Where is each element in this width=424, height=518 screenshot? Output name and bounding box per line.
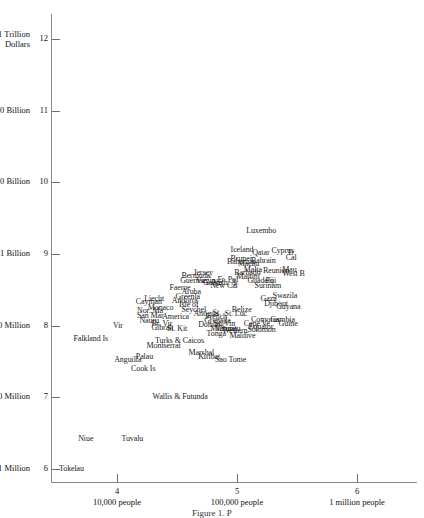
x-tick-label: 10,000 people (62, 497, 172, 507)
y-tick-label: 1 Billion (0, 249, 30, 259)
y-tick-label: 100 Billion (0, 106, 30, 116)
y-tick-number: 12 (34, 34, 48, 43)
y-tick-mark (52, 182, 60, 183)
scatter-label: Iceland (231, 246, 254, 255)
scatter-label: Vir (113, 322, 123, 331)
scatter-label: Brunei (231, 255, 252, 264)
chart-canvas: 121 TrillionDollars11100 Billion1010 Bil… (0, 0, 424, 518)
y-tick-number: 7 (34, 392, 48, 401)
scatter-label: West B (282, 270, 305, 279)
scatter-label: Bahrain (251, 257, 276, 266)
x-tick-label: 100,000 people (182, 497, 292, 507)
scatter-label: Swazila (273, 292, 298, 301)
scatter-label: Cook Is (131, 365, 155, 374)
scatter-label: Tuvalu (121, 435, 143, 444)
scatter-label: Faeroe (169, 284, 190, 293)
scatter-label: Wallis & Futunda (153, 393, 208, 402)
scatter-label: Solomon (247, 326, 275, 335)
y-tick-mark (52, 39, 60, 40)
x-tick-label: 1 million people (302, 497, 412, 507)
y-tick-number: 11 (34, 106, 48, 115)
scatter-label: St. Luc (225, 310, 247, 319)
scatter-label: Niue (78, 435, 93, 444)
scatter-label: Qatar (252, 249, 269, 258)
scatter-label: Sao Tome (215, 356, 246, 365)
y-tick-mark (52, 254, 60, 255)
scatter-label: Cayman (136, 298, 162, 307)
scatter-label: St. Kit (167, 325, 187, 334)
x-axis-line (51, 482, 417, 483)
x-tick-mark (117, 474, 118, 483)
x-tick-number: 5 (222, 486, 252, 496)
y-tick-label: 1 TrillionDollars (0, 30, 30, 49)
scatter-label: Tokelau (59, 465, 84, 474)
x-tick-number: 4 (102, 486, 132, 496)
scatter-label: Luxembo (246, 227, 276, 236)
y-tick-number: 6 (34, 464, 48, 473)
scatter-label: Palau (136, 353, 153, 362)
scatter-label: Guyana (276, 303, 300, 312)
scatter-label: Jersey (193, 269, 212, 278)
x-tick-number: 6 (342, 486, 372, 496)
y-tick-label: 10 Million (0, 392, 30, 402)
y-tick-label: 10 Billion (0, 177, 30, 187)
scatter-label: Turks & Caicos (155, 337, 204, 346)
y-axis-line (51, 14, 52, 482)
scatter-label: Guine (279, 320, 298, 329)
y-tick-number: 9 (34, 249, 48, 258)
y-tick-label: 100 Million (0, 321, 30, 331)
y-tick-mark (52, 397, 60, 398)
y-tick-label: 1 Million (0, 464, 30, 474)
y-tick-number: 8 (34, 321, 48, 330)
x-tick-mark (237, 474, 238, 483)
y-tick-mark (52, 111, 60, 112)
y-tick-number: 10 (34, 177, 48, 186)
scatter-label: Falkland Is (73, 335, 108, 344)
scatter-label: Tonga (207, 330, 226, 339)
y-tick-mark (52, 326, 60, 327)
x-tick-mark (357, 474, 358, 483)
figure-caption: Figure 1. P (0, 508, 424, 518)
scatter-label: Cal (286, 254, 297, 263)
